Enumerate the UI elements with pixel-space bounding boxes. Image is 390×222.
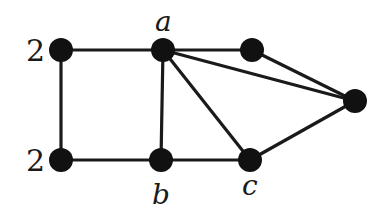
edge-c-fr <box>250 101 355 160</box>
node-label-c: c <box>242 169 258 202</box>
edge-a-b <box>161 50 163 160</box>
node-label-tl: 2 <box>26 33 45 68</box>
node-a <box>151 38 175 62</box>
node-tl <box>49 38 73 62</box>
node-fr <box>343 89 367 113</box>
node-tr <box>240 38 264 62</box>
node-label-b: b <box>152 178 170 211</box>
node-b <box>149 148 173 172</box>
node-label-bl: 2 <box>26 143 45 178</box>
graph-diagram: 2a2bc <box>0 0 390 222</box>
node-label-a: a <box>155 5 172 38</box>
node-bl <box>49 148 73 172</box>
edge-tr-fr <box>252 50 355 101</box>
graph-edges <box>61 50 355 160</box>
edge-a-c <box>163 50 250 160</box>
